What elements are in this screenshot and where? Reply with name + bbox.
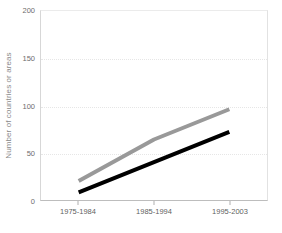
series-layer: [41, 11, 267, 200]
x-tick-mark: [230, 201, 231, 205]
y-axis-tick-labels: 050100150200: [14, 0, 38, 233]
x-axis-tick-labels: 1975-19841985-19941995-2003: [40, 207, 268, 221]
x-axis-tick-marks: [40, 201, 268, 206]
x-tick-label: 1975-1984: [60, 207, 96, 216]
y-tick-label: 200: [14, 6, 38, 15]
y-tick-label: 100: [14, 101, 38, 110]
line-chart: Number of countries or areas 05010015020…: [0, 0, 282, 233]
plot-area: [40, 10, 268, 201]
x-tick-label: 1985-1994: [136, 207, 172, 216]
y-tick-label: 150: [14, 53, 38, 62]
x-tick-mark: [154, 201, 155, 205]
x-tick-label: 1995-2003: [212, 207, 248, 216]
x-tick-mark: [78, 201, 79, 205]
y-tick-label: 0: [14, 197, 38, 206]
series-line: [79, 109, 230, 181]
y-axis-title-text: Number of countries or areas: [4, 52, 13, 158]
y-tick-label: 50: [14, 149, 38, 158]
